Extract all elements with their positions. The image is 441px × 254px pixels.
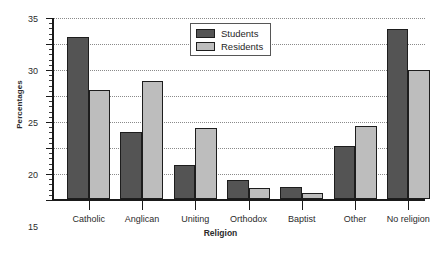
bar-catholic-residents <box>89 90 111 199</box>
x-tick-label: Other <box>344 214 367 224</box>
x-axis-line <box>52 199 425 201</box>
x-tick-mark <box>249 200 250 210</box>
gridline <box>52 70 425 71</box>
x-tick-mark <box>195 200 196 210</box>
bar-anglican-students <box>120 132 142 199</box>
x-tick-mark <box>142 200 143 210</box>
legend: Students Residents <box>190 23 271 56</box>
legend-label-residents: Residents <box>221 41 263 52</box>
legend-item-students: Students <box>196 27 263 39</box>
gridline <box>52 18 425 19</box>
bar-baptist-students <box>280 187 302 199</box>
bar-chart: Percentages 05101520253035 CatholicAngli… <box>0 0 441 254</box>
x-tick-mark <box>408 200 409 210</box>
y-tick-label: 20 <box>28 170 38 180</box>
bar-uniting-residents <box>195 128 217 199</box>
x-tick-label: No religion <box>387 214 430 224</box>
y-tick-label: 25 <box>28 118 38 128</box>
x-axis-title: Religion <box>0 228 441 238</box>
bar-no-religion-students <box>387 29 409 199</box>
y-tick-label: 35 <box>28 14 38 24</box>
bar-orthodox-residents <box>249 188 271 199</box>
legend-swatch-residents-icon <box>196 42 215 51</box>
x-tick-label: Orthodox <box>230 214 267 224</box>
legend-label-students: Students <box>221 28 259 39</box>
x-tick-label: Uniting <box>181 214 209 224</box>
bar-catholic-students <box>67 37 89 199</box>
x-tick-label: Catholic <box>72 214 105 224</box>
x-tick-label: Baptist <box>288 214 316 224</box>
bar-uniting-students <box>174 165 196 199</box>
bar-other-residents <box>355 126 377 199</box>
y-axis-line <box>52 18 54 200</box>
bar-no-religion-residents <box>408 70 430 199</box>
bar-orthodox-students <box>227 180 249 199</box>
bar-other-students <box>334 146 356 199</box>
bar-anglican-residents <box>142 81 164 199</box>
x-tick-mark <box>355 200 356 210</box>
legend-swatch-students-icon <box>196 29 215 38</box>
x-tick-mark <box>89 200 90 210</box>
x-tick-mark <box>302 200 303 210</box>
legend-item-residents: Residents <box>196 40 263 52</box>
y-tick-label: 30 <box>28 66 38 76</box>
x-tick-label: Anglican <box>125 214 160 224</box>
y-axis-title: Percentages <box>15 55 24 155</box>
